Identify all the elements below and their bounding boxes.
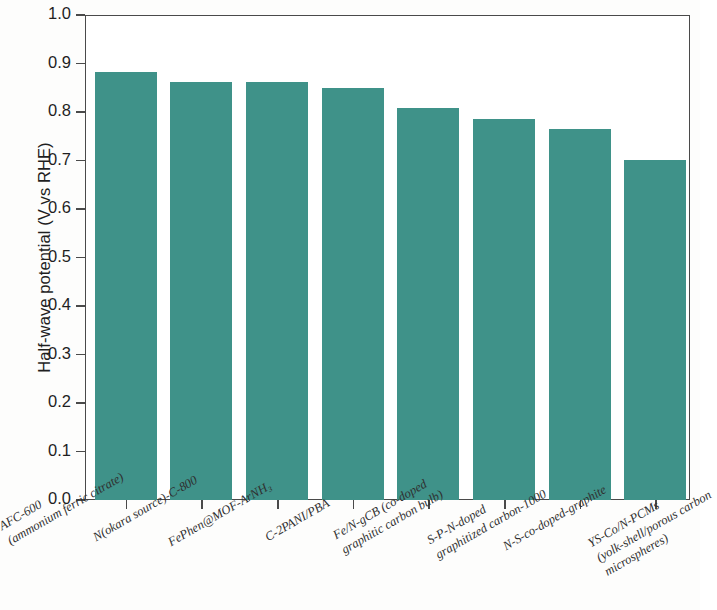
bars-group <box>85 15 690 500</box>
bar <box>246 82 308 500</box>
x-axis-tick-mark <box>201 500 203 509</box>
y-axis-tick-mark <box>76 354 85 356</box>
x-axis-label: C-2PANI/PBA <box>262 495 333 545</box>
y-axis-tick-mark <box>76 305 85 307</box>
y-axis-tick-label: 0.7 <box>48 150 71 169</box>
y-axis-tick-mark <box>76 14 85 16</box>
y-axis-tick-mark <box>76 63 85 65</box>
y-axis-tick-label: 0.8 <box>48 101 71 120</box>
bar <box>170 82 232 500</box>
bar <box>322 88 384 500</box>
bar <box>473 119 535 500</box>
bar <box>549 129 611 500</box>
y-axis-tick-mark <box>76 160 85 162</box>
y-axis-tick-label: 0.6 <box>48 198 71 217</box>
y-axis-tick-label: 0.4 <box>48 295 71 314</box>
bar <box>397 108 459 500</box>
y-axis-tick-mark <box>76 208 85 210</box>
y-axis-tick-mark <box>76 402 85 404</box>
y-axis-tick-mark <box>76 451 85 453</box>
y-axis-tick-mark <box>76 111 85 113</box>
bar <box>95 72 157 500</box>
y-axis-tick-label: 0.2 <box>48 392 71 411</box>
x-axis-label-line: C-2PANI/PBA <box>262 495 333 545</box>
y-axis-tick-mark <box>76 257 85 259</box>
y-axis-tick-label: 0.1 <box>48 441 71 460</box>
x-axis-tick-mark <box>277 500 279 509</box>
x-axis-tick-mark <box>353 500 355 509</box>
y-axis-tick-label: 0.9 <box>48 53 71 72</box>
bar <box>624 160 686 500</box>
y-axis-tick-label: 1.0 <box>48 4 71 23</box>
y-axis-tick-label: 0.5 <box>48 247 71 266</box>
y-axis-tick-label: 0.3 <box>48 344 71 363</box>
x-axis-tick-mark <box>126 500 128 509</box>
